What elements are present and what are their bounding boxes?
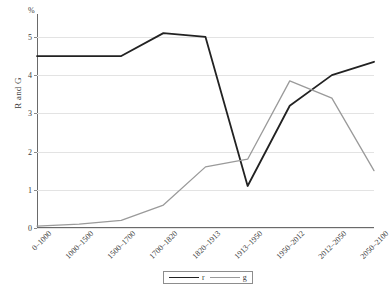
data-series-layer xyxy=(37,14,374,228)
y-tick-label: 1 xyxy=(28,185,32,194)
y-axis-title: R and G xyxy=(13,53,23,133)
x-axis-labels: 0–10001000–15001500–17001700–18201820–19… xyxy=(37,229,374,275)
y-tick-label: 2 xyxy=(28,147,32,156)
y-tick-label: 5 xyxy=(28,32,32,41)
series-line-r xyxy=(37,33,374,186)
y-axis-unit-label: % xyxy=(28,6,35,15)
legend-swatch-r-icon xyxy=(169,277,199,278)
chart-legend: r g xyxy=(163,271,253,284)
series-line-g xyxy=(37,81,374,226)
y-tick-label: 0 xyxy=(28,224,32,233)
y-tick-label: 3 xyxy=(28,109,32,118)
legend-item-r: r xyxy=(169,274,205,282)
y-tick-label: 4 xyxy=(28,71,32,80)
legend-item-g: g xyxy=(210,274,247,282)
x-tick-label: 0–1000 xyxy=(0,229,53,299)
legend-label-g: g xyxy=(243,274,247,282)
plot-area: 012345 xyxy=(37,14,374,228)
legend-swatch-g-icon xyxy=(210,277,240,278)
legend-label-r: r xyxy=(202,274,205,282)
